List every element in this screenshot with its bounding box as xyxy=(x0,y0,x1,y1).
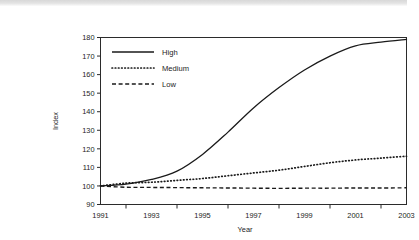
y-tick-label: 150 xyxy=(82,89,94,98)
series-line-low xyxy=(101,186,407,188)
plot-border xyxy=(101,38,407,205)
x-tick-label: 1991 xyxy=(92,211,108,220)
y-tick-label: 120 xyxy=(82,145,94,154)
series-line-medium xyxy=(101,156,407,186)
y-tick-label: 140 xyxy=(82,107,94,116)
y-axis-ticks: 90100110120130140150160170180 xyxy=(82,33,100,209)
x-tick-label: 1995 xyxy=(194,211,210,220)
chart-canvas: 90100110120130140150160170180 1991199319… xyxy=(40,16,419,240)
x-axis-ticks: 1991199319951997199920012003 xyxy=(92,205,414,220)
series-layer xyxy=(101,39,407,188)
scan-artifact-band xyxy=(0,0,407,6)
y-tick-label: 180 xyxy=(82,33,94,42)
series-line-high xyxy=(101,39,407,186)
y-tick-label: 160 xyxy=(82,70,94,79)
x-tick-label: 1997 xyxy=(245,211,261,220)
x-axis-title: Year xyxy=(238,225,253,234)
x-tick-label: 1999 xyxy=(296,211,312,220)
y-tick-label: 100 xyxy=(82,182,94,191)
y-axis-title: Index xyxy=(51,112,60,130)
x-tick-label: 2001 xyxy=(347,211,363,220)
legend-label-medium: Medium xyxy=(162,64,189,73)
y-tick-label: 170 xyxy=(82,52,94,61)
legend-label-low: Low xyxy=(162,80,176,89)
line-chart-figure: 90100110120130140150160170180 1991199319… xyxy=(40,16,419,240)
legend-label-high: High xyxy=(162,48,178,57)
plot-frame xyxy=(101,38,407,205)
x-tick-label: 1993 xyxy=(143,211,159,220)
y-tick-label: 90 xyxy=(86,200,94,209)
y-tick-label: 130 xyxy=(82,126,94,135)
x-tick-label: 2003 xyxy=(398,211,414,220)
chart-legend: HighMediumLow xyxy=(112,48,189,89)
y-tick-label: 110 xyxy=(83,163,95,172)
